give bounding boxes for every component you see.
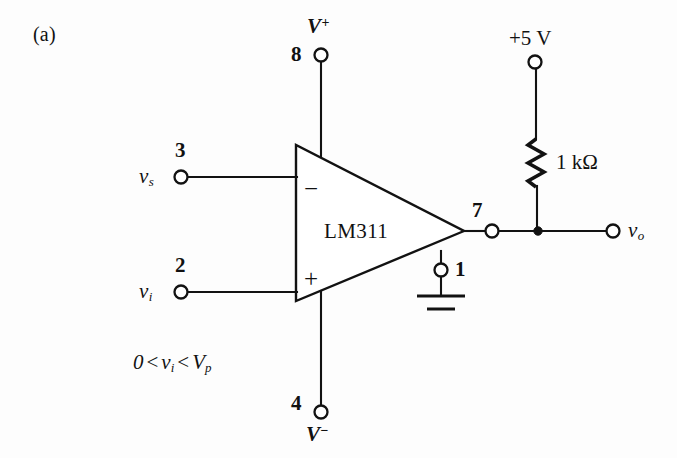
pin-number-3: 3	[175, 140, 186, 161]
pin-number-8: 8	[291, 44, 302, 65]
pin-number-7: 7	[472, 200, 483, 221]
label-v-plus-sign: +	[322, 15, 330, 30]
terminal-circle-vo[interactable]	[607, 225, 620, 238]
pin-number-2: 2	[175, 255, 186, 276]
label-supply-plus5v: +5 V	[509, 28, 551, 49]
terminal-circle-pin3[interactable]	[175, 171, 188, 184]
condition-rhs: V	[192, 350, 205, 374]
condition-mid: v	[161, 350, 170, 374]
circuit-figure: (a) V+ 8 3 vs 2 vi − + LM311 1 4 V− 7 vo…	[0, 0, 677, 458]
terminal-circle-pin8[interactable]	[315, 49, 328, 62]
label-v-minus-text: V	[306, 422, 320, 446]
panel-label: (a)	[33, 24, 56, 44]
label-vo: vo	[628, 220, 644, 242]
terminal-circle-plus5v[interactable]	[529, 56, 542, 69]
condition-expression: 0<vi<Vp	[133, 352, 211, 374]
condition-mid-sub: i	[171, 360, 175, 375]
terminal-circle-pin1[interactable]	[435, 264, 448, 277]
label-v-minus: V−	[306, 424, 329, 445]
label-vi-text: v	[139, 279, 148, 303]
label-vi-sub: i	[149, 289, 153, 304]
condition-op1: <	[147, 350, 159, 374]
condition-op2: <	[177, 350, 189, 374]
resistor-zigzag-1kohm	[528, 139, 544, 187]
noninverting-input-sign: +	[304, 266, 318, 291]
terminal-circle-pin7[interactable]	[486, 225, 499, 238]
pin-number-4: 4	[291, 393, 302, 414]
terminal-circle-pin4[interactable]	[315, 406, 328, 419]
label-vo-text: v	[628, 218, 637, 242]
part-number-label: LM311	[324, 221, 388, 242]
label-v-plus-text: V	[307, 14, 321, 38]
terminal-circle-pin2[interactable]	[175, 286, 188, 299]
label-vo-sub: o	[638, 228, 645, 243]
condition-lhs: 0	[133, 350, 144, 374]
label-vi: vi	[139, 281, 152, 303]
label-v-minus-sign: −	[321, 423, 329, 438]
inverting-input-sign: −	[304, 176, 318, 201]
label-v-plus: V+	[307, 16, 330, 37]
condition-rhs-sub: p	[205, 360, 212, 375]
label-vs-text: v	[139, 164, 148, 188]
label-vs: vs	[139, 166, 154, 188]
label-resistor-value: 1 kΩ	[556, 152, 598, 173]
label-vs-sub: s	[149, 174, 154, 189]
pin-number-1: 1	[455, 259, 466, 280]
